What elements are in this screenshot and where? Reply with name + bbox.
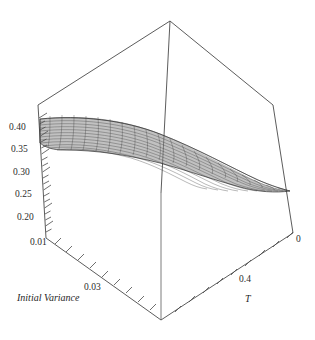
y-axis-ticks (175, 232, 293, 312)
x-axis-line (46, 238, 161, 320)
y-tick-label-0: 0.4 (239, 274, 251, 284)
x-tick-label-1: 0.03 (84, 282, 101, 292)
x-axis-title: Initial Variance (16, 292, 80, 303)
z-tick-label-3: 0.25 (15, 189, 32, 199)
box-edge-vertical-back (161, 21, 170, 193)
y-tick-label-1: 0 (296, 234, 301, 244)
z-tick-label-2: 0.30 (13, 167, 30, 177)
surface-plot-figure: 0.40 0.35 0.30 0.25 0.20 0.01 0.03 0.4 0… (0, 0, 315, 340)
surface-silhouette (40, 117, 290, 192)
box-edge-top-right (170, 21, 273, 105)
surface-mesh (40, 115, 290, 192)
box-edge-vertical-right (273, 105, 293, 233)
z-tick-label-1: 0.35 (11, 144, 28, 154)
z-tick-label-4: 0.20 (17, 212, 34, 222)
y-axis-line (161, 233, 293, 320)
x-tick-label-0: 0.01 (30, 237, 47, 247)
axis-box-wireframe (38, 21, 293, 320)
box-edge-top-left (38, 21, 170, 105)
z-tick-label-0: 0.40 (9, 122, 26, 132)
plot-canvas: 0.40 0.35 0.30 0.25 0.20 0.01 0.03 0.4 0… (0, 0, 315, 340)
y-axis-title: T (245, 293, 252, 304)
